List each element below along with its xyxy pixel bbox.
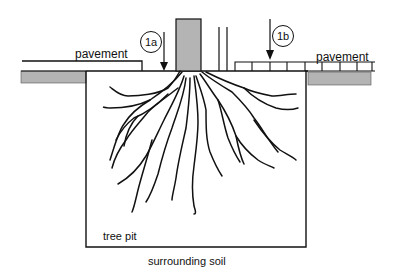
callout-1a: 1a: [140, 31, 162, 53]
surrounding-soil-label: surrounding soil: [148, 255, 226, 267]
right-pavement-slab: [308, 72, 371, 85]
callout-1b: 1b: [272, 25, 294, 47]
tree-trunk: [176, 19, 201, 71]
tree-pit-diagram: [0, 0, 393, 269]
left-pavement: [21, 61, 142, 83]
tree-pit-label: tree pit: [103, 230, 137, 242]
post-lines: [219, 27, 227, 71]
tree-roots: [104, 71, 298, 214]
pavement-left-label: pavement: [75, 47, 128, 61]
pavement-right-label: pavement: [316, 50, 369, 64]
